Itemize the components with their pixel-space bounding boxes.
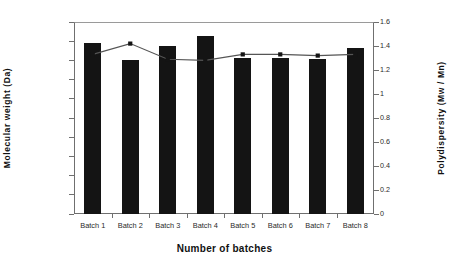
x-axis-tick-label: Batch 5 bbox=[230, 221, 255, 230]
x-axis-tick-label: Batch 6 bbox=[268, 221, 293, 230]
bar bbox=[309, 59, 326, 214]
x-axis-tick-label: Batch 4 bbox=[193, 221, 218, 230]
y-axis-right-tick-label: 0.4 bbox=[380, 162, 390, 169]
y-axis-right-tick-label: 0.6 bbox=[380, 138, 390, 145]
y-axis-right-tick-label: 0 bbox=[380, 210, 384, 217]
y-axis-right-tickmark bbox=[374, 214, 379, 215]
y-axis-left-tickmark bbox=[69, 79, 74, 80]
y-axis-left-tickmark bbox=[69, 22, 74, 23]
y-axis-right-tickmark bbox=[374, 118, 379, 119]
x-axis-tick-label: Batch 8 bbox=[343, 221, 368, 230]
y-axis-right-title: Polydispersity (Mw / Mn) bbox=[434, 22, 448, 214]
y-axis-right-tick-label: 1.6 bbox=[380, 18, 390, 25]
y-axis-right-tick-label: 1.4 bbox=[380, 42, 390, 49]
x-axis-tickmark bbox=[299, 214, 300, 218]
y-axis-right-tickmark bbox=[374, 22, 379, 23]
x-axis-tickmark bbox=[337, 214, 338, 218]
y-axis-left-tickmark bbox=[69, 118, 74, 119]
bar bbox=[272, 58, 289, 214]
y-axis-right-tickmark bbox=[374, 190, 379, 191]
bar bbox=[84, 43, 101, 214]
bar bbox=[347, 48, 364, 214]
bar bbox=[234, 58, 251, 214]
y-axis-right-tick-label: 0.2 bbox=[380, 186, 390, 193]
y-axis-left-tickmark bbox=[69, 137, 74, 138]
y-axis-left-title: Molecular weight (Da) bbox=[0, 22, 14, 214]
y-axis-right-tickmark bbox=[374, 70, 379, 71]
y-axis-right-tick-label: 0.8 bbox=[380, 114, 390, 121]
y-axis-right-tickmark bbox=[374, 142, 379, 143]
x-axis-tick-label: Batch 2 bbox=[118, 221, 143, 230]
x-axis-title: Number of batches bbox=[0, 243, 449, 254]
x-axis-tickmark bbox=[149, 214, 150, 218]
y-axis-right-tick-label: 1 bbox=[380, 90, 384, 97]
x-axis-tickmark bbox=[224, 214, 225, 218]
y-axis-left-tickmark bbox=[69, 175, 74, 176]
x-axis-tick-label: Batch 1 bbox=[80, 221, 105, 230]
y-axis-left-tickmark bbox=[69, 156, 74, 157]
y-axis-right-tick-label: 1.2 bbox=[380, 66, 390, 73]
y-axis-left-tickmark bbox=[69, 41, 74, 42]
y-axis-left-tickmark bbox=[69, 194, 74, 195]
bar bbox=[159, 46, 176, 214]
y-axis-right-tickmark bbox=[374, 46, 379, 47]
y-axis-left-title-text: Molecular weight (Da) bbox=[2, 68, 12, 168]
y-axis-left-tickmark bbox=[69, 98, 74, 99]
chart-figure: Molecular weight (Da) Polydispersity (Mw… bbox=[0, 0, 449, 267]
x-axis-tickmark bbox=[187, 214, 188, 218]
bar bbox=[122, 60, 139, 214]
y-axis-right-tickmark bbox=[374, 166, 379, 167]
x-axis-tickmark bbox=[112, 214, 113, 218]
y-axis-left-tickmark bbox=[69, 214, 74, 215]
x-axis-tick-label: Batch 7 bbox=[305, 221, 330, 230]
x-axis-tick-label: Batch 3 bbox=[155, 221, 180, 230]
y-axis-left-tickmark bbox=[69, 60, 74, 61]
y-axis-right-tickmark bbox=[374, 94, 379, 95]
bar bbox=[197, 36, 214, 214]
x-axis-tickmark bbox=[262, 214, 263, 218]
plot-area bbox=[74, 22, 374, 214]
y-axis-right-title-text: Polydispersity (Mw / Mn) bbox=[436, 61, 446, 175]
